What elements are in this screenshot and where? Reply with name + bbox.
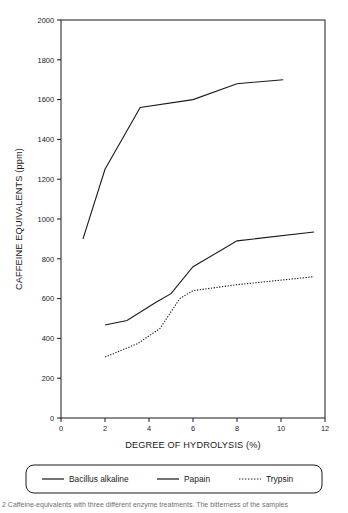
x-tick-label: 12 <box>321 424 329 433</box>
x-axis-title: DEGREE OF HYDROLYSIS (%) <box>125 440 261 450</box>
y-tick-group <box>57 20 61 418</box>
legend-label-papain: Papain <box>184 474 210 484</box>
x-tick-label: 2 <box>103 424 107 433</box>
x-axis: 024681012 <box>59 418 329 433</box>
legend: Bacillus alkaline Papain Trypsin <box>26 465 322 493</box>
x-tick-labels: 024681012 <box>59 424 329 433</box>
y-tick-labels: 0200400600800100012001400160018002000 <box>38 16 54 423</box>
y-axis: 0200400600800100012001400160018002000 <box>38 16 61 423</box>
y-axis-title: CAFFEINE EQUIVALENTS (ppm) <box>14 148 24 290</box>
x-tick-group <box>61 418 325 422</box>
figure-container: 0200400600800100012001400160018002000 02… <box>0 0 348 513</box>
y-tick-label: 1400 <box>38 135 54 144</box>
plot-frame <box>61 20 325 418</box>
caffeine-equivalents-line-chart: 0200400600800100012001400160018002000 02… <box>0 0 348 513</box>
figure-caption: 2 Caffeine-equivalents with three differ… <box>2 500 346 509</box>
y-tick-label: 400 <box>42 334 54 343</box>
x-tick-label: 8 <box>235 424 239 433</box>
y-tick-label: 200 <box>42 374 54 383</box>
y-tick-label: 2000 <box>38 16 54 25</box>
x-tick-label: 0 <box>59 424 63 433</box>
y-tick-label: 1200 <box>38 175 54 184</box>
y-tick-label: 0 <box>50 414 54 423</box>
y-tick-label: 800 <box>42 255 54 264</box>
y-tick-label: 1600 <box>38 95 54 104</box>
legend-label-bacillus-alkaline: Bacillus alkaline <box>69 474 129 484</box>
legend-label-trypsin: Trypsin <box>266 474 293 484</box>
x-tick-label: 10 <box>277 424 285 433</box>
x-tick-label: 6 <box>191 424 195 433</box>
y-tick-label: 600 <box>42 294 54 303</box>
y-tick-label: 1000 <box>38 215 54 224</box>
x-tick-label: 4 <box>147 424 151 433</box>
y-tick-label: 1800 <box>38 56 54 65</box>
